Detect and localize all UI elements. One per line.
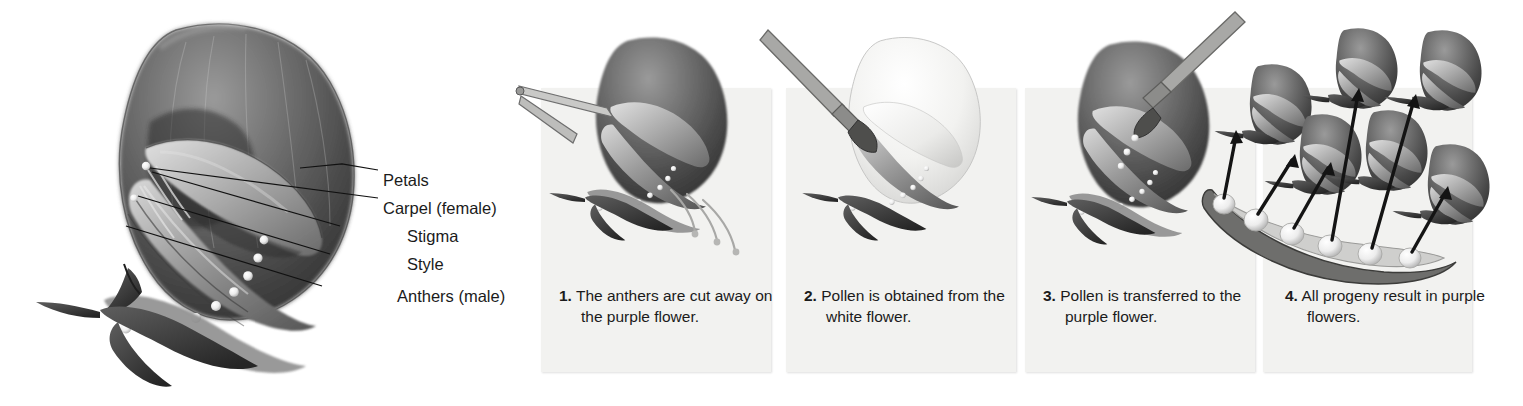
step-3-illustration (995, 18, 1287, 283)
step-number-1: 1. (559, 287, 572, 304)
step-2-illustration (756, 18, 1048, 283)
label-carpel: Carpel (female) (383, 200, 497, 217)
step-number-2: 2. (804, 287, 817, 304)
step-4-illustration (1218, 8, 1508, 288)
step-panel-1: 1. The anthers are cut away on the purpl… (541, 88, 771, 372)
step-text-1: The anthers are cut away on the purple f… (576, 287, 772, 325)
step-number-4: 4. (1285, 287, 1298, 304)
label-anthers: Anthers (male) (397, 288, 505, 305)
step-panel-3: 3. Pollen is transferred to the purple f… (1025, 88, 1255, 372)
step-caption-4: 4. All progeny result in purple flowers. (1285, 286, 1487, 327)
progeny-arrows (1224, 94, 1446, 252)
paintbrush-icon (760, 30, 877, 152)
step-text-4: All progeny result in purple flowers. (1301, 287, 1485, 325)
progeny-arrowheads (1230, 88, 1452, 200)
step-number-3: 3. (1043, 287, 1056, 304)
stigma-tip (142, 162, 150, 170)
label-style: Style (407, 256, 444, 273)
step-text-3: Pollen is transferred to the purple flow… (1060, 287, 1241, 325)
cut-anthers (671, 190, 735, 250)
transferred-pollen (1118, 134, 1139, 169)
step-caption-2: 2. Pollen is obtained from the white flo… (804, 286, 1026, 327)
step-caption-1: 1. The anthers are cut away on the purpl… (559, 286, 781, 327)
style-tip (130, 194, 137, 201)
step-caption-3: 3. Pollen is transferred to the purple f… (1043, 286, 1265, 327)
step-panel-4: 4. All progeny result in purple flowers. (1263, 88, 1472, 372)
step-1-illustration (511, 18, 803, 283)
label-petals: Petals (383, 172, 429, 189)
label-stigma: Stigma (407, 228, 458, 245)
paintbrush-icon (1134, 12, 1245, 138)
step-panel-2: 2. Pollen is obtained from the white flo… (786, 88, 1016, 372)
step-text-2: Pollen is obtained from the white flower… (821, 287, 1005, 325)
anatomy-label-group: Petals Carpel (female) Stigma Style Anth… (383, 0, 563, 406)
pollination-steps: 1. The anthers are cut away on the purpl… (541, 0, 1523, 406)
progeny-flowers (1215, 28, 1490, 225)
